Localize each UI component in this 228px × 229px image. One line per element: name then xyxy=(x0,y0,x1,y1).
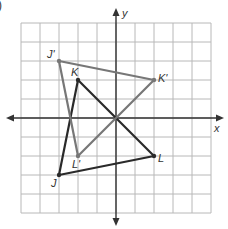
vertex-label-l: L xyxy=(158,153,164,164)
vertex-point xyxy=(57,173,61,177)
vertex-point xyxy=(152,154,156,158)
vertex-label-l-prime: L' xyxy=(72,159,80,170)
x-axis-right-arrow-icon xyxy=(216,115,224,122)
y-axis-down-arrow-icon xyxy=(113,218,120,226)
vertex-point xyxy=(76,78,80,82)
coordinate-plane: ) x y J' K K' L' J L xyxy=(0,0,228,229)
vertex-point xyxy=(152,78,156,82)
vertex-label-j-prime: J' xyxy=(47,49,55,60)
y-axis-label: y xyxy=(122,8,128,19)
x-axis-label: x xyxy=(214,123,220,134)
vertex-label-k: K xyxy=(71,67,78,78)
y-axis-up-arrow-icon xyxy=(113,8,120,16)
vertex-point xyxy=(57,59,61,63)
problem-marker: ) xyxy=(0,0,2,12)
x-axis-left-arrow-icon xyxy=(6,115,14,122)
graph-svg xyxy=(0,0,228,229)
vertex-label-k-prime: K' xyxy=(158,73,167,84)
vertex-label-j: J xyxy=(51,178,57,189)
